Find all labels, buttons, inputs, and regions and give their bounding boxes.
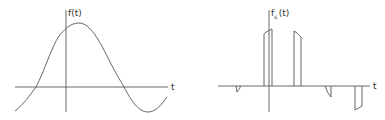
right-y-label: fs(t) bbox=[271, 8, 289, 20]
pulse-4 bbox=[325, 86, 331, 97]
right-plot: fs(t) t bbox=[218, 8, 377, 112]
left-x-label: t bbox=[171, 82, 175, 92]
pulse-5 bbox=[355, 86, 362, 110]
right-x-label: t bbox=[373, 81, 377, 91]
left-y-label: f(t) bbox=[68, 8, 82, 18]
sampling-figure: f(t) t fs(t) t bbox=[0, 0, 385, 120]
sampled-pulses bbox=[236, 29, 362, 110]
pulse-1 bbox=[236, 86, 240, 92]
pulse-3 bbox=[294, 31, 301, 86]
sinusoid-curve bbox=[15, 23, 167, 112]
pulse-2 bbox=[264, 29, 272, 86]
left-plot: f(t) t bbox=[15, 8, 175, 112]
right-y-label-suffix: (t) bbox=[279, 8, 290, 18]
right-y-label-subscript: s bbox=[274, 13, 277, 20]
